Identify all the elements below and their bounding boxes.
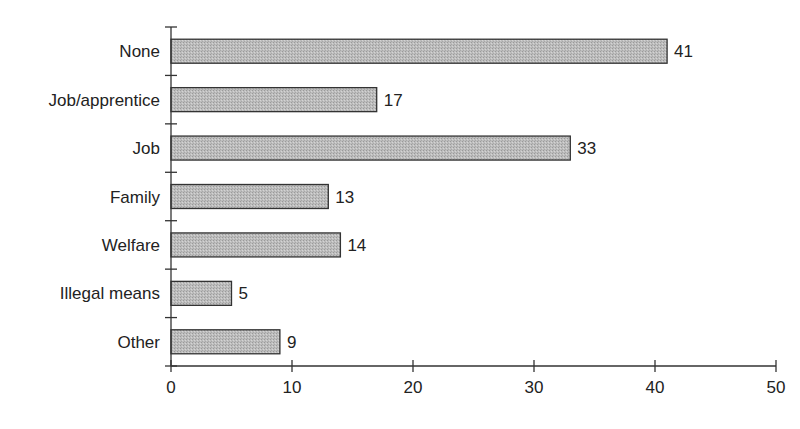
value-label: 9 xyxy=(287,333,296,352)
category-label: Family xyxy=(110,188,161,207)
axes-group: None41Job/apprentice17Job33Family13Welfa… xyxy=(48,27,785,397)
x-tick-label: 50 xyxy=(767,378,786,397)
category-label: Welfare xyxy=(102,236,160,255)
bar-welfare xyxy=(171,233,340,257)
bar-family xyxy=(171,185,328,209)
value-label: 17 xyxy=(384,91,403,110)
x-tick-label: 20 xyxy=(404,378,423,397)
value-label: 5 xyxy=(239,284,248,303)
x-tick-label: 40 xyxy=(646,378,665,397)
x-tick-label: 30 xyxy=(525,378,544,397)
value-label: 14 xyxy=(347,236,366,255)
category-label: Job xyxy=(133,139,160,158)
bar-none xyxy=(171,39,667,63)
category-label: Other xyxy=(117,333,160,352)
value-label: 13 xyxy=(335,188,354,207)
x-tick-label: 10 xyxy=(283,378,302,397)
bar-other xyxy=(171,330,280,354)
category-label: None xyxy=(119,42,160,61)
x-tick-label: 0 xyxy=(166,378,175,397)
bar-job-apprentice xyxy=(171,88,377,112)
bar-chart: None41Job/apprentice17Job33Family13Welfa… xyxy=(0,0,800,429)
bar-job xyxy=(171,136,570,160)
value-label: 33 xyxy=(577,139,596,158)
bar-illegal-means xyxy=(171,281,232,305)
value-label: 41 xyxy=(674,42,693,61)
category-label: Illegal means xyxy=(60,284,160,303)
category-label: Job/apprentice xyxy=(48,91,160,110)
bars-group xyxy=(171,39,667,354)
